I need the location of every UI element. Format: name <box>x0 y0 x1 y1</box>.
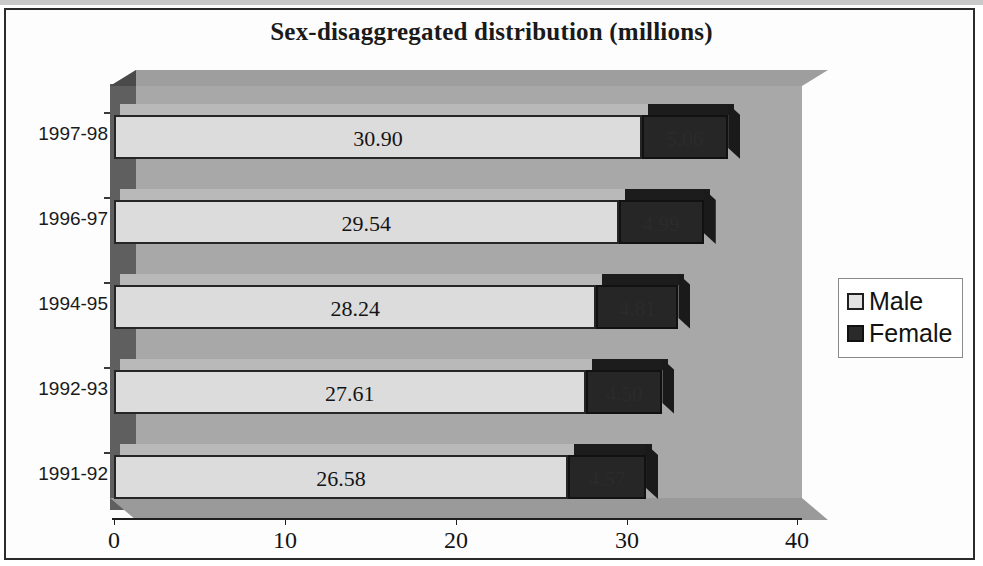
y-axis-label-1997-98: 1997-98 <box>4 122 108 146</box>
bar-value-label-male: 30.90 <box>116 117 640 161</box>
bar-segment-male-top <box>120 104 648 115</box>
y-axis-label-1994-95: 1994-95 <box>4 292 108 316</box>
legend-label-male: Male <box>869 289 923 314</box>
legend-label-female: Female <box>869 321 952 346</box>
bar-value-label-female: 4.99 <box>621 202 702 246</box>
y-axis-label-1992-93: 1992-93 <box>4 377 108 401</box>
bar-segment-female: 4.81 <box>596 285 678 329</box>
legend-item-female[interactable]: Female <box>847 317 952 349</box>
bar-value-label-female: 5.06 <box>644 117 726 161</box>
bar-value-label-male: 27.61 <box>116 372 584 416</box>
bar-segment-female-top <box>625 189 710 200</box>
bar-value-label-male: 28.24 <box>116 287 594 331</box>
bar-segment-female: 5.06 <box>642 115 728 159</box>
bar-segment-female-top <box>648 104 734 115</box>
bar-value-label-male: 26.58 <box>116 457 566 501</box>
x-axis-label-30: 30 <box>597 527 657 554</box>
bar-row: 29.544.99 <box>114 200 704 244</box>
bar-segment-female: 4.99 <box>619 200 704 244</box>
chart-title: Sex-disaggregated distribution (millions… <box>0 18 983 46</box>
legend-swatch-male-icon <box>847 293 864 310</box>
bar-segment-male: 28.24 <box>114 285 596 329</box>
x-axis-label-40: 40 <box>767 527 827 554</box>
chart-legend: Male Female <box>838 278 963 358</box>
bar-segment-male: 27.61 <box>114 370 586 414</box>
bar-segment-male-top <box>120 189 625 200</box>
bar-end-cap <box>646 444 658 499</box>
x-axis-tick-0 <box>114 518 115 525</box>
bar-end-cap <box>728 104 740 159</box>
bar-value-label-male: 29.54 <box>116 202 617 246</box>
bar-segment-male-top <box>120 274 602 285</box>
bar-segment-female: 4.50 <box>586 370 663 414</box>
bar-segment-male-top <box>120 359 592 370</box>
x-axis-tick-30 <box>627 518 628 525</box>
bar-row: 30.905.06 <box>114 115 728 159</box>
bar-segment-female-top <box>592 359 669 370</box>
x-axis-line <box>112 518 802 520</box>
x-axis-tick-10 <box>285 518 286 525</box>
bar-end-cap <box>662 359 674 414</box>
bars-layer: 30.905.0629.544.9928.244.8127.614.5026.5… <box>110 70 828 522</box>
bar-value-label-female: 4.50 <box>588 372 661 416</box>
bar-segment-female-top <box>602 274 684 285</box>
x-axis-label-20: 20 <box>426 527 486 554</box>
x-axis-tick-20 <box>456 518 457 525</box>
bar-value-label-female: 4.81 <box>598 287 676 331</box>
bar-segment-male-top <box>120 444 574 455</box>
y-axis-label-1996-97: 1996-97 <box>4 207 108 231</box>
bar-segment-male: 29.54 <box>114 200 619 244</box>
bar-segment-male: 26.58 <box>114 455 568 499</box>
scan-edge-artifact <box>0 0 983 5</box>
bar-row: 26.584.57 <box>114 455 646 499</box>
bar-end-cap <box>704 189 716 244</box>
y-axis-label-1991-92: 1991-92 <box>4 462 108 486</box>
bar-end-cap <box>678 274 690 329</box>
legend-item-male[interactable]: Male <box>847 285 952 317</box>
legend-swatch-female-icon <box>847 325 864 342</box>
bar-segment-female: 4.57 <box>568 455 646 499</box>
x-axis-label-10: 10 <box>255 527 315 554</box>
x-axis-tick-40 <box>797 518 798 525</box>
bar-row: 28.244.81 <box>114 285 678 329</box>
x-axis-label-0: 0 <box>84 527 144 554</box>
bar-row: 27.614.50 <box>114 370 662 414</box>
bar-segment-male: 30.90 <box>114 115 642 159</box>
plot-area: 30.905.0629.544.9928.244.8127.614.5026.5… <box>110 70 828 522</box>
y-axis-category-labels: 1997-98 1996-97 1994-95 1992-93 1991-92 <box>0 70 108 522</box>
bar-value-label-female: 4.57 <box>570 457 644 501</box>
bar-segment-female-top <box>574 444 652 455</box>
chart-page: Sex-disaggregated distribution (millions… <box>0 0 983 566</box>
